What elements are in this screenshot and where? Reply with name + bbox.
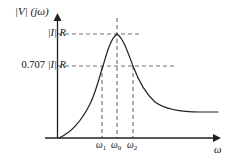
x-tick-omega1-base: ω (96, 140, 103, 150)
resonance-response-figure: |V| (jω) |I| R 0.707 |I| R ω1 ω0 ω2 ω (0, 0, 245, 162)
half-power-coefficient: 0.707 (21, 59, 47, 70)
y-tick-peak-label: |I| R (48, 28, 66, 39)
y-axis-label: |V| (jω) (15, 6, 49, 17)
x-tick-omega2: ω2 (127, 141, 137, 151)
x-axis-arrowhead (213, 134, 221, 142)
resonance-curve (59, 34, 218, 138)
x-tick-omega0-base: ω (111, 140, 118, 150)
plot-canvas (0, 0, 245, 162)
half-power-magnitude: |I| R (48, 59, 66, 70)
x-tick-omega0-subscript: 0 (118, 144, 122, 152)
x-axis-label: ω (214, 145, 221, 156)
y-axis-arrowhead (54, 13, 62, 21)
x-tick-omega0: ω0 (111, 141, 121, 151)
x-tick-omega2-subscript: 2 (134, 144, 138, 152)
y-tick-half-power-label: 0.707 |I| R (21, 60, 66, 71)
x-tick-omega1: ω1 (96, 141, 106, 151)
x-tick-omega1-subscript: 1 (103, 144, 107, 152)
x-tick-omega2-base: ω (127, 140, 134, 150)
